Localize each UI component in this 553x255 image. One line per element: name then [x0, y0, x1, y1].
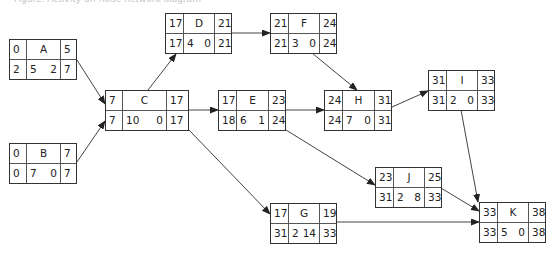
early-finish: 23 [268, 91, 285, 110]
activity-node-g: 17 G 19 31 214 33 [270, 203, 337, 244]
early-start: 0 [10, 40, 26, 59]
edge-j-k [441, 188, 479, 211]
activity-node-h: 24 H 31 24 70 31 [324, 90, 392, 131]
float: 0 [518, 226, 525, 238]
float: 1 [258, 114, 265, 126]
early-finish: 7 [60, 144, 76, 163]
activity-node-d: 17 D 21 17 40 21 [165, 13, 232, 54]
activity-node-c: 7 C 17 7 100 17 [105, 90, 189, 131]
early-finish: 25 [424, 168, 441, 187]
edge-i-k [461, 110, 478, 202]
duration: 10 [126, 114, 139, 126]
float: 0 [204, 37, 211, 49]
activity-node-e: 17 E 23 18 61 24 [218, 90, 286, 131]
activity-node-f: 21 F 24 21 30 24 [270, 13, 337, 54]
late-start: 7 [106, 111, 122, 131]
early-finish: 17 [166, 91, 188, 110]
early-start: 17 [219, 91, 236, 110]
edge-f-h [312, 53, 357, 90]
edge-h-i [392, 91, 428, 107]
duration-float: 40 [183, 34, 214, 54]
duration: 4 [187, 37, 194, 49]
early-finish: 19 [319, 204, 336, 223]
late-finish: 33 [319, 224, 336, 244]
edge-b-c [77, 121, 105, 162]
late-finish: 17 [166, 111, 188, 131]
edge-c-d [148, 54, 176, 90]
activity-name: E [236, 91, 268, 110]
activity-node-j: 23 J 25 31 28 33 [375, 167, 442, 208]
late-finish: 38 [528, 223, 545, 243]
edge-a-c [77, 60, 105, 104]
early-finish: 24 [319, 14, 336, 33]
activity-name: H [342, 91, 374, 110]
duration-float: 70 [26, 164, 60, 184]
duration: 6 [240, 114, 247, 126]
late-finish: 33 [424, 188, 441, 208]
late-finish: 33 [477, 91, 494, 111]
activity-name: A [26, 40, 60, 59]
early-finish: 33 [477, 71, 494, 90]
activity-name: C [122, 91, 166, 110]
early-start: 0 [10, 144, 26, 163]
duration: 5 [501, 226, 508, 238]
duration-float: 61 [236, 111, 268, 131]
early-start: 23 [376, 168, 393, 187]
late-finish: 21 [214, 34, 231, 54]
float: 0 [467, 94, 474, 106]
float: 14 [303, 227, 316, 239]
edge-e-j [286, 130, 375, 185]
float: 0 [156, 114, 163, 126]
duration: 7 [30, 167, 37, 179]
late-start: 18 [219, 111, 236, 131]
duration-float: 28 [393, 188, 424, 208]
float: 0 [309, 37, 316, 49]
late-start: 31 [376, 188, 393, 208]
activity-name: F [288, 14, 319, 33]
activity-name: G [288, 204, 319, 223]
duration: 2 [397, 191, 404, 203]
duration: 2 [450, 94, 457, 106]
activity-name: B [26, 144, 60, 163]
late-finish: 31 [374, 111, 391, 131]
float: 0 [50, 167, 57, 179]
activity-name: K [497, 203, 528, 222]
duration: 2 [292, 227, 299, 239]
float: 2 [50, 63, 57, 75]
duration: 7 [346, 114, 353, 126]
duration-float: 214 [288, 224, 319, 244]
early-start: 24 [325, 91, 342, 110]
early-start: 33 [480, 203, 497, 222]
early-start: 17 [166, 14, 183, 33]
activity-node-a: 0 A 5 2 52 7 [9, 39, 77, 80]
duration-float: 100 [122, 111, 166, 131]
float: 8 [414, 191, 421, 203]
late-finish: 7 [60, 164, 76, 184]
early-finish: 5 [60, 40, 76, 59]
late-start: 31 [271, 224, 288, 244]
late-start: 17 [166, 34, 183, 54]
activity-name: J [393, 168, 424, 187]
float: 0 [364, 114, 371, 126]
edge-c-g [189, 130, 270, 214]
duration: 5 [30, 63, 37, 75]
late-start: 24 [325, 111, 342, 131]
late-start: 0 [10, 164, 26, 184]
activity-node-i: 31 I 33 31 20 33 [428, 70, 495, 111]
duration-float: 70 [342, 111, 374, 131]
activity-name: I [446, 71, 477, 90]
duration: 3 [292, 37, 299, 49]
duration-float: 20 [446, 91, 477, 111]
duration-float: 30 [288, 34, 319, 54]
early-start: 17 [271, 204, 288, 223]
early-finish: 31 [374, 91, 391, 110]
early-start: 7 [106, 91, 122, 110]
early-finish: 38 [528, 203, 545, 222]
late-start: 21 [271, 34, 288, 54]
duration-float: 50 [497, 223, 528, 243]
late-start: 2 [10, 60, 26, 80]
late-finish: 24 [319, 34, 336, 54]
late-start: 33 [480, 223, 497, 243]
early-start: 21 [271, 14, 288, 33]
late-finish: 24 [268, 111, 285, 131]
